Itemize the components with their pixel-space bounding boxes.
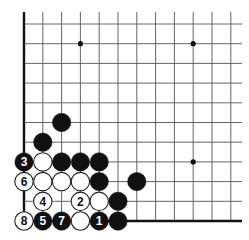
white-stone: 4 [34, 192, 52, 210]
black-stone [71, 153, 89, 171]
move-number-label: 1 [96, 214, 103, 228]
black-stone [109, 192, 127, 210]
star-point-icon [78, 41, 83, 46]
black-stone [109, 212, 127, 230]
move-number-label: 4 [39, 195, 46, 209]
white-stone [52, 172, 70, 190]
move-number-label: 3 [21, 155, 28, 169]
black-stone [128, 172, 146, 190]
white-stone [71, 172, 89, 190]
star-point-icon [191, 41, 196, 46]
black-stone [52, 153, 70, 171]
white-stone: 2 [71, 192, 89, 210]
black-stone [90, 153, 108, 171]
black-stone [90, 172, 108, 190]
move-number-label: 5 [39, 214, 46, 228]
move-number-label: 7 [58, 214, 65, 228]
white-stone: 6 [15, 172, 33, 190]
white-stone [71, 212, 89, 230]
white-stone [90, 192, 108, 210]
move-number-label: 8 [21, 214, 28, 228]
black-stone: 7 [52, 212, 70, 230]
white-stone [34, 172, 52, 190]
black-stone: 5 [34, 212, 52, 230]
black-stone: 1 [90, 212, 108, 230]
move-number-label: 6 [21, 175, 28, 189]
black-stone [52, 113, 70, 131]
black-stone [34, 133, 52, 151]
star-point-icon [191, 159, 196, 164]
move-number-label: 2 [77, 195, 84, 209]
white-stone: 8 [15, 212, 33, 230]
go-board-diagram: 36428571 [0, 0, 249, 240]
black-stone: 3 [15, 153, 33, 171]
white-stone [34, 153, 52, 171]
